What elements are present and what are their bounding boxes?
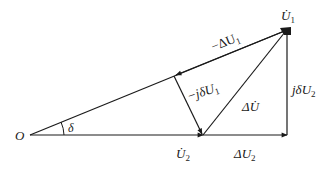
u2-label: U̇2 xyxy=(176,147,190,163)
delta-u2-label: ΔU2 xyxy=(234,147,256,163)
j-delta-u2-label: jδU2 xyxy=(292,83,316,99)
angle-arc xyxy=(61,122,64,135)
angle-label: δ xyxy=(68,122,74,134)
u1-arrowhead xyxy=(280,27,291,35)
u1-label: U̇1 xyxy=(281,9,295,25)
phasor-diagram xyxy=(0,0,333,170)
delta-u-dot-label: ΔU̇ xyxy=(242,100,259,113)
origin-label: O xyxy=(15,129,24,142)
